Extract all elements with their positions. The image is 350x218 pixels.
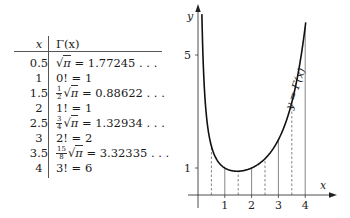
- guide-lines: [211, 27, 305, 195]
- x-tick-label: 2: [248, 199, 255, 212]
- tick-marks: 123415: [184, 49, 309, 212]
- y-tick-label: 1: [184, 162, 191, 175]
- axes: x y: [186, 4, 337, 208]
- x-tick-label: 1: [221, 199, 228, 212]
- y-axis-label: y: [186, 10, 194, 23]
- x-axis-label: x: [320, 179, 327, 192]
- x-tick-label: 4: [302, 199, 309, 212]
- gamma-function-graph: x y 123415 y = Γ(x): [0, 0, 350, 218]
- x-tick-label: 3: [275, 199, 282, 212]
- x-axis-arrow-icon: [329, 192, 337, 197]
- y-tick-label: 5: [184, 49, 191, 62]
- curve-label: y = Γ(x): [282, 66, 307, 111]
- y-axis-arrow-icon: [195, 4, 200, 12]
